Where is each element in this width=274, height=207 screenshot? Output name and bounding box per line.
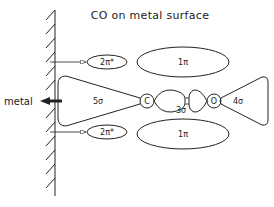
orbital-2pi-star-top-label: 2π* (100, 58, 114, 67)
orbital-1pi-bottom-label: 1π (178, 130, 188, 139)
oxygen-atom-label: O (211, 97, 217, 106)
orbital-3sigma-label: 3σ (176, 106, 186, 115)
orbital-5sigma-label: 5σ (93, 97, 103, 106)
metal-label: metal (4, 96, 33, 107)
diagram-title: CO on metal surface (91, 9, 209, 22)
donation-arrow-icon (40, 97, 62, 105)
orbital-2pi-star-bottom-label: 2π* (100, 128, 114, 137)
orbital-3sigma-lobe-o (189, 90, 207, 112)
orbital-1pi-top-label: 1π (178, 58, 188, 67)
orbital-4sigma-lobe (220, 77, 268, 125)
orbital-4sigma-label: 4σ (233, 97, 243, 106)
carbon-atom-label: C (144, 97, 150, 106)
co-metal-surface-diagram: CO on metal surface metal 2π* 1π 5σ C 3σ (0, 0, 274, 207)
